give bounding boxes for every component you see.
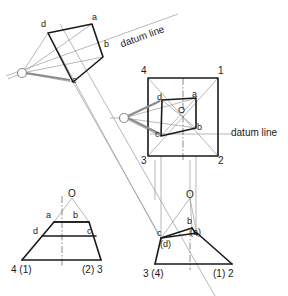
plan-square-label-2: 2 xyxy=(218,156,224,166)
elev-right-label-a-hidden: (a) xyxy=(190,228,201,237)
plan-square-label-o: O xyxy=(178,106,185,115)
elev-right-base-right-label: (1) 2 xyxy=(213,269,234,279)
plan-square-label-1: 1 xyxy=(218,66,224,76)
elev-right-base-left-label: 3 (4) xyxy=(143,269,164,279)
apex-circle-plan-square xyxy=(120,114,129,123)
construction-lines xyxy=(6,14,232,296)
plan-rotated-label-b: b xyxy=(104,40,109,49)
elev-left-base-right-label: (2) 3 xyxy=(82,265,103,275)
elev-left-label-c: c xyxy=(87,227,92,236)
plan-rotated-label-c: c xyxy=(72,76,77,85)
plan-rotated-quad xyxy=(48,24,103,82)
elev-right-label-o: O xyxy=(186,190,194,200)
projection-long-3 xyxy=(48,33,158,234)
plan-square-label-4: 4 xyxy=(141,66,147,76)
plan-rotated-label-a: a xyxy=(92,13,97,22)
elev-right-apex-ray-c xyxy=(161,198,190,238)
apex-connector-mid-2 xyxy=(128,101,160,116)
elev-left-label-d: d xyxy=(33,227,38,236)
projection-long-1 xyxy=(60,24,215,296)
datum-line-middle-label: datum line xyxy=(231,128,277,138)
plan-square-label-d: d xyxy=(157,93,162,102)
plan-square-label-a: a xyxy=(192,90,197,99)
elev-left-label-a: a xyxy=(46,211,51,220)
plan-rotated-label-d: d xyxy=(41,20,46,29)
apex-ray-top-left-1 xyxy=(22,33,48,73)
technical-drawing-canvas: d a b c datum line 4 1 3 2 d a O b c dat… xyxy=(0,0,288,296)
elev-right-label-b: b xyxy=(187,217,192,226)
elev-left-apex-ray-a xyxy=(54,198,72,222)
elev-left-label-b: b xyxy=(73,211,78,220)
apex-circle-plan-rotated xyxy=(18,69,27,78)
plan-square-label-c: c xyxy=(155,130,160,139)
apex-connector-left xyxy=(26,73,70,80)
elev-left-base-left-label: 4 (1) xyxy=(11,265,32,275)
elev-right-label-c: c xyxy=(157,229,162,238)
plan-square-label-3: 3 xyxy=(141,156,147,166)
elev-right-label-d-hidden: (d) xyxy=(160,240,171,249)
elev-left-label-o: O xyxy=(68,189,76,199)
plan-square-label-b: b xyxy=(197,123,202,132)
drawing-svg xyxy=(0,0,288,296)
